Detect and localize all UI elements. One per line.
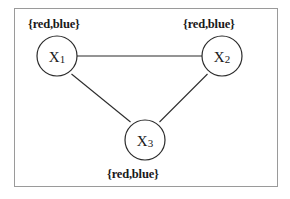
node-label-x1-name: X: [49, 49, 60, 65]
domain-label-x3: {red,blue}: [107, 168, 159, 181]
node-label-x2: X2: [214, 50, 230, 65]
node-label-x3-name: X: [137, 133, 148, 149]
node-label-x1: X1: [49, 50, 65, 65]
node-label-x1-subscript: 1: [60, 53, 66, 65]
domain-label-x1: {red,blue}: [28, 18, 80, 31]
edge-x1-x3: [72, 74, 131, 122]
node-label-x3: X3: [137, 134, 153, 149]
constraint-graph-figure: X1 X2 X3 {red,blue} {red,blue} {red,blue…: [0, 0, 290, 199]
node-label-x2-name: X: [214, 49, 225, 65]
node-label-x2-subscript: 2: [225, 53, 231, 65]
edge-x2-x3: [160, 74, 208, 122]
node-label-x3-subscript: 3: [148, 137, 154, 149]
domain-label-x2: {red,blue}: [183, 18, 235, 31]
